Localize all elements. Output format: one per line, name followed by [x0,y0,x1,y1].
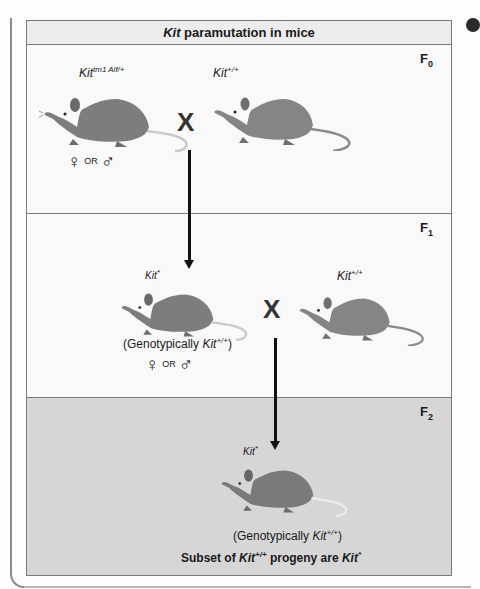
paramutation-figure: Kit paramutation in mice F0 Kittm1 Alf/+… [26,20,452,576]
caption-genotypically-f1: (Genotypically Kit+/+) [123,336,232,351]
panel-f1: F1 Kit* (Genotypically Kit+/+) X Kit+/+ … [27,214,451,398]
generation-label-f2: F2 [420,404,433,422]
mouse-icon-f0-right [211,83,361,151]
female-symbol-icon: ♀ [67,151,81,172]
page-margin-rule [10,18,24,588]
sex-indicator-f1: ♀OR♂ [145,354,193,376]
genotype-kit-tm1alf: Kittm1 Alf/+ [79,65,125,80]
genotype-kit-wt-f0: Kit+/+ [213,65,239,80]
generation-label-f0: F0 [420,51,433,69]
genotype-kit-wt-f1: Kit+/+ [337,268,363,283]
generation-label-f1: F1 [420,220,433,238]
bullet-dot-icon [466,18,480,32]
mouse-icon-f1-right [295,284,435,346]
arrow-f1-to-f2 [274,338,277,444]
arrow-f0-to-f1 [188,150,191,263]
mouse-icon-f0-left [39,83,199,153]
caption-genotypically-f2: (Genotypically Kit+/+) [233,528,342,543]
title-text: paramutation in mice [180,25,314,40]
male-symbol-icon: ♂ [179,354,193,375]
page-bottom-rule [24,586,471,588]
figure-title: Kit paramutation in mice [27,21,451,45]
mouse-icon-f1-left [117,280,257,342]
sex-indicator-f0: ♀OR♂ [67,151,115,173]
panel-f2: F2 Kit* (Genotypically Kit+/+) Subset of… [27,398,451,575]
female-symbol-icon: ♀ [145,354,159,375]
mouse-icon-f2 [217,456,357,518]
title-gene: Kit [163,25,180,40]
cross-symbol-f1: X [263,294,280,325]
panel-f0: F0 Kittm1 Alf/+ X Kit+/+ ♀OR♂ [27,45,451,214]
summary-statement: Subset of Kit+/+ progeny are Kit* [181,550,361,565]
male-symbol-icon: ♂ [101,151,115,172]
cross-symbol-f0: X [177,107,194,138]
